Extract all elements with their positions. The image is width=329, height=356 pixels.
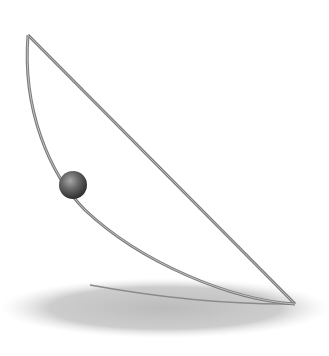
- brachistochrone-diagram: [0, 0, 329, 356]
- ball: [59, 171, 87, 199]
